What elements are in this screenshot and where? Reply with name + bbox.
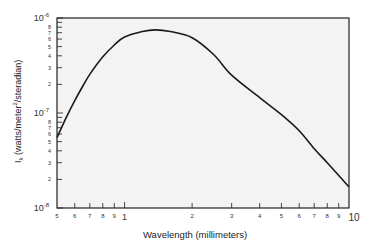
x-tick-label: 7 xyxy=(313,213,317,219)
y-tick-label: 7 xyxy=(48,125,51,131)
y-major-tick-label: 10-8 xyxy=(34,202,50,213)
x-tick-label: 8 xyxy=(326,213,330,219)
x-tick-label: 5 xyxy=(55,213,59,219)
x-tick-label: 1 xyxy=(122,212,127,222)
x-tick-label: 8 xyxy=(101,213,105,219)
y-major-tick-label: 10-7 xyxy=(34,107,50,118)
x-tick-label: 4 xyxy=(258,213,262,219)
x-axis-label: Wavelength (millimeters) xyxy=(143,229,247,240)
y-tick-label: 2 xyxy=(48,81,51,87)
y-label-superscript: 2 xyxy=(12,102,18,105)
y-tick-label: 5 xyxy=(48,139,51,145)
y-tick-label: 3 xyxy=(48,65,51,71)
y-label-symbol: I xyxy=(13,161,23,164)
y-tick-label: 4 xyxy=(48,53,51,59)
y-label-text-end: /steradian) xyxy=(13,60,23,103)
x-tick-label: 3 xyxy=(230,213,234,219)
x-tick-label: 7 xyxy=(88,213,92,219)
y-tick-label: 7 xyxy=(48,30,51,36)
y-tick-label: 4 xyxy=(48,148,51,154)
x-tick-label: 9 xyxy=(337,213,341,219)
x-tick-label: 6 xyxy=(73,213,77,219)
y-tick-label: 5 xyxy=(48,44,51,50)
y-label-subscript: λ xyxy=(18,158,24,161)
x-tick-label: 5 xyxy=(280,213,284,219)
plot-area xyxy=(57,18,349,208)
y-tick-label: 3 xyxy=(48,160,51,166)
x-tick-label: 6 xyxy=(298,213,302,219)
x-tick-label: 2 xyxy=(190,213,194,219)
y-major-tick-label: 10-6 xyxy=(34,12,50,23)
y-tick-label: 6 xyxy=(48,131,51,137)
x-tick-label: 10 xyxy=(348,212,360,223)
y-label-text: (watts/meter xyxy=(13,106,23,158)
y-tick-label: 2 xyxy=(48,176,51,182)
y-tick-label: 8 xyxy=(48,24,51,30)
chart: 56789234567891102345678234567810-610-710… xyxy=(0,0,370,252)
x-tick-label: 9 xyxy=(113,213,117,219)
y-axis-label: Iλ (watts/meter2/steradian) xyxy=(12,11,25,211)
y-tick-label: 8 xyxy=(48,119,51,125)
y-tick-label: 6 xyxy=(48,36,51,42)
